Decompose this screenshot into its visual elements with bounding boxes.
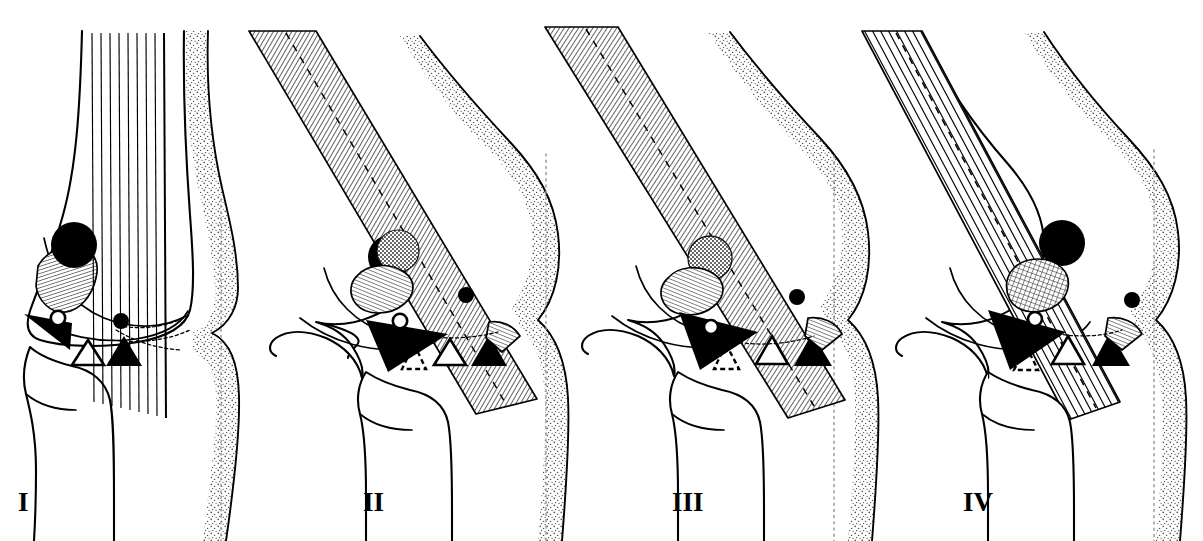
posterior-solid-circle (789, 289, 805, 305)
knee-flexion-figure: I II (0, 0, 1203, 541)
panel-label-3: III (672, 487, 704, 517)
panel-label-2: II (363, 487, 384, 517)
figure-canvas: I II (0, 0, 1203, 541)
patella-marker-filled-circle (51, 222, 97, 268)
inferior-pole-open-circle (704, 320, 718, 334)
panel-label-4: IV (963, 487, 994, 517)
inferior-pole-open-circle (1028, 312, 1042, 326)
inferior-pole-open-circle (393, 314, 407, 328)
posterior-solid-circle (458, 287, 474, 303)
posterior-solid-circle (1124, 292, 1140, 308)
panel-label-1: I (18, 487, 29, 517)
inferior-pole-open-circle (51, 311, 65, 325)
